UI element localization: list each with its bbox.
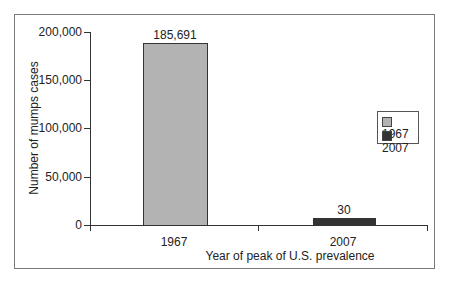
legend-item-1967: 1967	[382, 116, 418, 128]
legend-swatch-icon	[382, 117, 392, 127]
y-tick-label-150000: 150,000	[12, 73, 82, 87]
bar-label-1967: 185,691	[135, 28, 215, 42]
y-tick-label-0: 0	[12, 218, 82, 232]
x-axis	[90, 225, 428, 226]
x-category-1967: 1967	[134, 235, 214, 249]
bar-2007	[313, 218, 376, 226]
legend-item-2007: 2007	[382, 130, 418, 142]
y-axis	[90, 32, 91, 226]
bar-label-2007: 30	[304, 203, 384, 217]
legend-swatch-icon	[382, 131, 392, 141]
legend: 1967 2007	[377, 111, 419, 144]
x-category-2007: 2007	[303, 235, 383, 249]
x-tick	[258, 225, 259, 231]
bar-1967	[143, 43, 208, 226]
y-tick-label-100000: 100,000	[12, 121, 82, 135]
x-axis-label: Year of peak of U.S. prevalence	[150, 249, 430, 263]
legend-label: 2007	[382, 141, 409, 155]
y-tick-label-50000: 50,000	[12, 170, 82, 184]
x-tick	[90, 225, 91, 231]
x-tick	[427, 225, 428, 231]
y-tick-label-200000: 200,000	[12, 25, 82, 39]
